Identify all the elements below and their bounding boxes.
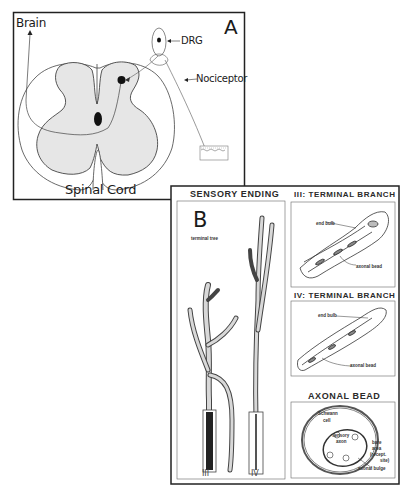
terminal-branch-iii-title: III: TERMINAL BRANCH [294, 191, 396, 199]
bare-area-label-4: site) [380, 459, 389, 464]
sensory-axon-label-1: sensory [332, 434, 349, 439]
iii-axonal-bead-label: axonal bead [356, 265, 382, 270]
axonal-bead-title: AXONAL BEAD [308, 392, 380, 401]
iv-end-bulb-label: end bulb [318, 314, 337, 319]
panel-b-drawing [0, 0, 410, 496]
panel-b: SENSORY ENDING III: TERMINAL BRANCH IV: … [0, 0, 410, 496]
iii-end-bulb-label: end bulb [316, 222, 335, 227]
schwann-label-2: cell [323, 419, 331, 424]
terminal-branch-iv-title: IV: TERMINAL BRANCH [294, 292, 395, 300]
bare-area-label-2: area [372, 447, 381, 452]
terminal-tree-label: terminal tree [191, 237, 218, 242]
bare-area-label-1: bare [372, 441, 382, 446]
bare-area-label-3: (recept. [370, 453, 386, 458]
branch-label-iii: III [202, 470, 209, 478]
axonal-bulge-label: axonal bulge [358, 467, 386, 472]
schwann-label-1: Schwann [318, 412, 338, 417]
branch-label-iv: IV [251, 470, 259, 478]
iv-axonal-bead-label: axonal bead [350, 364, 376, 369]
sensory-axon-label-2: axon [336, 440, 347, 445]
sensory-ending-title: SENSORY ENDING [190, 190, 279, 199]
panel-b-letter: B [193, 210, 207, 231]
